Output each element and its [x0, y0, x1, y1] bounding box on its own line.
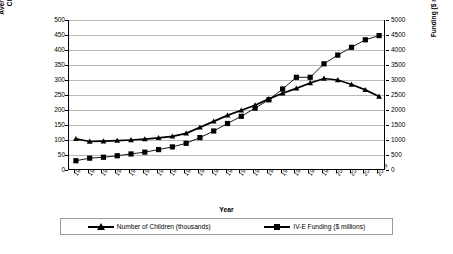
legend-item[interactable]: IV-E Funding ($ millions) — [264, 222, 365, 231]
y-axis-right-tick-label: 500 — [391, 152, 402, 159]
y-axis-right-tick-label: 0 — [391, 167, 395, 174]
x-axis-tick-mark — [143, 170, 144, 173]
y-axis-left-tick-label: 150 — [54, 122, 65, 129]
data-point-square — [184, 141, 189, 146]
y-axis-right-tick-label: 2000 — [391, 107, 405, 114]
x-axis-tick-mark — [253, 170, 254, 173]
legend-label: IV-E Funding ($ millions) — [293, 223, 365, 230]
legend-label: Number of Children (thousands) — [117, 223, 211, 230]
chart-root: Average Monthly Number of Title IV-E Chi… — [0, 0, 453, 254]
chart-legend: Number of Children (thousands)IV-E Fundi… — [60, 218, 393, 235]
y-axis-right-tick-mark — [386, 155, 389, 156]
y-axis-left-tick-label: 300 — [54, 77, 65, 84]
y-axis-left-tick-mark — [65, 170, 68, 171]
data-point-square — [197, 135, 202, 140]
plot-area — [68, 20, 385, 170]
data-point-square — [321, 61, 326, 66]
data-point-square — [252, 106, 257, 111]
y-axis-left-tick-label: 350 — [54, 62, 65, 69]
x-axis-tick-mark — [281, 170, 282, 173]
y-axis-right-tick-label: 4000 — [391, 47, 405, 54]
y-axis-right-tick-mark — [386, 170, 389, 171]
data-point-square — [363, 37, 368, 42]
x-axis-tick-mark — [198, 170, 199, 173]
x-axis-tick-mark — [239, 170, 240, 173]
y-axis-right-tick-mark — [386, 125, 389, 126]
data-point-square — [211, 128, 216, 133]
y-axis-right-tick-mark — [386, 35, 389, 36]
y-axis-right-tick-mark — [386, 65, 389, 66]
data-point-square — [156, 147, 161, 152]
x-axis-tick-mark — [350, 170, 351, 173]
x-axis-tick-mark — [363, 170, 364, 173]
x-axis-tick-mark — [184, 170, 185, 173]
y-axis-left-tick-label: 100 — [54, 137, 65, 144]
y-axis-right-tick-mark — [386, 110, 389, 111]
data-point-square — [308, 75, 313, 80]
x-axis-tick-mark — [88, 170, 89, 173]
data-point-square — [349, 45, 354, 50]
x-axis-tick-mark — [322, 170, 323, 173]
y-axis-left-tick-label: 200 — [54, 107, 65, 114]
y-axis-right-tick-mark — [386, 95, 389, 96]
data-point-square — [115, 153, 120, 158]
x-axis-tick-mark — [129, 170, 130, 173]
x-axis-tick-mark — [115, 170, 116, 173]
data-point-square — [225, 121, 230, 126]
y-axis-right-tick-mark — [386, 80, 389, 81]
x-axis-tick-mark — [212, 170, 213, 173]
y-axis-right-tick-mark — [386, 50, 389, 51]
legend-triangle-icon — [88, 222, 114, 231]
data-point-square — [239, 114, 244, 119]
x-axis-tick-mark — [377, 170, 378, 173]
data-point-square — [266, 97, 271, 102]
y-axis-right-tick-label: 1000 — [391, 137, 405, 144]
data-point-square — [335, 53, 340, 58]
data-point-square — [377, 33, 382, 38]
data-point-square — [280, 86, 285, 91]
data-series-layer — [69, 20, 386, 170]
x-axis-tick-mark — [157, 170, 158, 173]
series-line — [76, 79, 379, 142]
y-axis-right-tick-label: 3500 — [391, 62, 405, 69]
x-axis-tick-mark — [294, 170, 295, 173]
y-axis-right-tick-mark — [386, 140, 389, 141]
y-axis-right-tick-label: 5000 — [391, 17, 405, 24]
data-point-square — [142, 150, 147, 155]
y-axis-right-tick-label: 2500 — [391, 92, 405, 99]
x-axis-tick-mark — [336, 170, 337, 173]
data-point-square — [294, 75, 299, 80]
data-point-square — [73, 158, 78, 163]
legend-item[interactable]: Number of Children (thousands) — [88, 222, 211, 231]
x-axis-tick-mark — [308, 170, 309, 173]
y-axis-right-tick-label: 4500 — [391, 32, 405, 39]
legend-square-icon — [264, 222, 290, 231]
y-axis-left-tick-label: 50 — [58, 152, 65, 159]
data-point-square — [128, 151, 133, 156]
y-axis-left-tick-label: 250 — [54, 92, 65, 99]
x-axis-tick-mark — [170, 170, 171, 173]
y-axis-right-title: Funding ($ millions) — [430, 0, 438, 56]
x-axis-tick-mark — [226, 170, 227, 173]
x-axis-tick-mark — [101, 170, 102, 173]
data-point-square — [87, 156, 92, 161]
y-axis-left-tick-label: 450 — [54, 32, 65, 39]
data-point-square — [170, 144, 175, 149]
y-axis-right-tick-label: 1500 — [391, 122, 405, 129]
data-point-square — [101, 155, 106, 160]
x-axis-tick-mark — [267, 170, 268, 173]
y-axis-right-tick-label: 3000 — [391, 77, 405, 84]
y-axis-left-tick-label: 400 — [54, 47, 65, 54]
y-axis-left-title: Average Monthly Number of Title IV-E Chi… — [0, 0, 14, 26]
y-axis-left-tick-label: 500 — [54, 17, 65, 24]
x-axis-tick-mark — [74, 170, 75, 173]
series-line — [76, 36, 379, 161]
x-axis-title: Year — [0, 206, 453, 213]
y-axis-right-tick-mark — [386, 20, 389, 21]
